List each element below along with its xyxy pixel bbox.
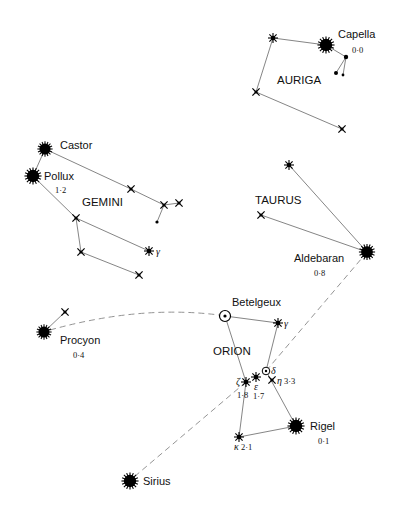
greek-label-gamma-gemini: γ <box>156 246 161 257</box>
star-capella-icon <box>317 36 334 53</box>
magnitude-epsilon: 1·7 <box>253 391 264 401</box>
constellation-label-taurus: TAURUS <box>255 194 302 206</box>
constellation-gemini: Castor Pollux 1·2 γ GEMINI <box>24 139 182 279</box>
star-label-betelgeux: Betelgeux <box>232 296 281 308</box>
star-icon <box>135 271 142 278</box>
greek-label-delta: δ <box>271 365 276 376</box>
star-icon <box>344 55 348 59</box>
star-icon <box>268 33 278 43</box>
star-betelgeux-icon <box>220 311 231 322</box>
star-icon <box>127 185 134 192</box>
star-gamma-orion-icon <box>273 318 283 328</box>
star-label-capella: Capella <box>338 28 376 40</box>
star-rigel-icon <box>287 417 304 434</box>
magnitude-pollux: 1·2 <box>55 185 66 195</box>
star-icon <box>61 308 68 315</box>
greek-label-gamma-orion: γ <box>284 318 289 329</box>
star-label-rigel: Rigel <box>310 420 335 432</box>
constellation-auriga: Capella 0·0 AURIGA <box>252 28 376 133</box>
star-icon <box>257 211 264 218</box>
star-gamma-gemini-icon <box>144 246 154 256</box>
constellation-label-orion: ORION <box>213 345 251 357</box>
star-icon <box>284 160 294 170</box>
star-zeta-orion-icon <box>241 377 251 387</box>
greek-label-zeta: ζ <box>236 376 241 388</box>
constellation-label-gemini: GEMINI <box>82 196 123 208</box>
constellation-label-auriga: AURIGA <box>277 74 321 86</box>
pointer-line-orion-sirius <box>134 382 246 477</box>
pointer-lines <box>50 258 362 477</box>
star-label-sirius: Sirius <box>143 475 171 487</box>
constellation-orion: Betelgeux ORION γ δ η 3·3 ε 1·7 ζ 1·8 κ … <box>213 296 335 452</box>
star-icon <box>252 88 259 95</box>
star-pollux-icon <box>24 167 41 184</box>
magnitude-rigel: 0·1 <box>318 436 329 446</box>
star-label-aldebaran: Aldebaran <box>294 252 344 264</box>
magnitude-procyon: 0·4 <box>73 350 85 360</box>
star-delta-orion-icon <box>262 367 270 375</box>
magnitude-kappa: 2·1 <box>241 442 252 452</box>
star-sirius-icon <box>121 472 138 489</box>
magnitude-aldebaran: 0·8 <box>314 268 325 278</box>
star-procyon-icon <box>36 324 51 339</box>
star-label-castor: Castor <box>60 139 93 151</box>
star-icon <box>338 125 345 132</box>
star-icon <box>334 71 338 75</box>
star-icon <box>342 74 345 77</box>
magnitude-zeta: 1·8 <box>237 390 248 400</box>
greek-label-kappa: κ <box>234 441 239 452</box>
constellation-taurus: TAURUS Aldebaran 0·8 <box>255 160 375 278</box>
star-castor-icon <box>37 141 52 156</box>
star-icon <box>155 220 158 223</box>
pointer-line-betelgeux-procyon <box>50 312 219 330</box>
star-label-procyon: Procyon <box>60 334 100 346</box>
constellation-canis-minor: Procyon 0·4 <box>36 308 100 360</box>
star-chart: Capella 0·0 AURIGA Castor Pollux 1·2 γ G… <box>0 0 399 511</box>
star-aldebaran-icon <box>359 244 375 260</box>
star-group-sirius: Sirius <box>121 472 171 489</box>
star-label-pollux: Pollux <box>44 170 74 182</box>
magnitude-capella: 0·0 <box>352 45 363 55</box>
magnitude-eta: 3·3 <box>284 376 295 386</box>
greek-label-eta: η <box>277 375 282 386</box>
